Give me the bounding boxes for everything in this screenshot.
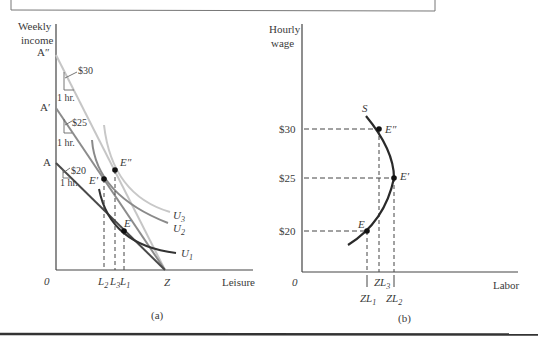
label-u2: U2 bbox=[173, 222, 185, 237]
panel-a-y-label-2: income bbox=[21, 34, 53, 46]
label-e-a: E bbox=[123, 217, 131, 229]
panel-a-y-label-1: Weekly bbox=[18, 20, 52, 32]
labor-supply-curve bbox=[348, 116, 394, 245]
intercept-z: Z bbox=[164, 276, 171, 288]
tick-zl2: ZL2 bbox=[386, 292, 402, 307]
label-e-prime-a: E′ bbox=[88, 174, 99, 186]
intercept-a-prime: A′ bbox=[40, 101, 50, 113]
panel-b-x-label: Labor bbox=[493, 279, 520, 291]
tick-wage-20: $20 bbox=[279, 225, 296, 237]
label-s: S bbox=[362, 102, 368, 114]
wage-label-20: $20 bbox=[71, 165, 86, 176]
point-e-prime-a bbox=[101, 176, 107, 182]
point-e-double-prime-b bbox=[376, 126, 382, 132]
caption-box-border bbox=[11, 0, 435, 11]
point-e-a bbox=[121, 228, 127, 234]
tick-zl3: ZL3 bbox=[374, 276, 390, 291]
intercept-a: A bbox=[43, 156, 51, 168]
budget-line-30 bbox=[56, 55, 165, 270]
panel-a-origin: 0 bbox=[44, 275, 50, 287]
wage-label-30: $30 bbox=[78, 65, 93, 76]
label-e-double-prime-a: E″ bbox=[119, 156, 132, 168]
panel-b-caption: (b) bbox=[398, 312, 411, 325]
panel-a-x-label: Leisure bbox=[222, 276, 255, 288]
point-e-b bbox=[364, 228, 370, 234]
panel-b-origin: 0 bbox=[292, 276, 298, 288]
tick-wage-25: $25 bbox=[279, 172, 296, 184]
labor-supply-diagram: Weekly income $30 1 hr. $25 1 hr. $20 1 … bbox=[0, 0, 538, 346]
panel-a: Weekly income $30 1 hr. $25 1 hr. $20 1 … bbox=[18, 20, 255, 322]
panel-a-caption: (a) bbox=[151, 309, 164, 322]
tick-wage-30: $30 bbox=[279, 123, 296, 135]
intercept-a-double-prime: A″ bbox=[37, 46, 50, 58]
hour-label-3: 1 hr. bbox=[60, 177, 78, 188]
point-e-prime-b bbox=[391, 175, 397, 181]
bottom-rule bbox=[0, 334, 538, 335]
panel-b-y-label-1: Hourly bbox=[269, 23, 301, 35]
point-e-double-prime-a bbox=[112, 167, 118, 173]
label-e-double-prime-b: E″ bbox=[384, 123, 397, 135]
tick-l2: L2 bbox=[97, 275, 108, 290]
tick-zl1: ZL1 bbox=[360, 292, 376, 307]
label-e-prime-b: E′ bbox=[399, 170, 410, 182]
panel-b-y-label-2: wage bbox=[271, 37, 294, 49]
hour-label-1: 1 hr. bbox=[57, 92, 75, 103]
label-e-b: E bbox=[357, 218, 365, 230]
tick-l3: L3 bbox=[109, 275, 120, 290]
wage-label-25: $25 bbox=[72, 117, 87, 128]
budget-line-25 bbox=[56, 108, 165, 270]
panel-b: Hourly wage $30 $25 $20 S E″ E′ E ZL3 ZL… bbox=[269, 23, 520, 325]
label-u1: U1 bbox=[181, 247, 193, 262]
hour-label-2: 1 hr. bbox=[57, 137, 75, 148]
tick-l1: L1 bbox=[119, 275, 130, 290]
